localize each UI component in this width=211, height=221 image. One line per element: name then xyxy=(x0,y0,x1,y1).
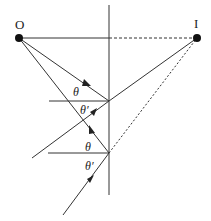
reflected-ray-1 xyxy=(32,101,109,158)
diagram-canvas xyxy=(0,0,211,221)
virtual-ray-1 xyxy=(109,38,197,101)
image-point xyxy=(193,34,201,42)
angle-reflection-1: θ′ xyxy=(80,104,89,116)
object-point xyxy=(15,34,23,42)
arrow-icon xyxy=(89,125,95,134)
incident-ray-1 xyxy=(19,38,109,101)
angle-reflection-2: θ′ xyxy=(85,160,94,172)
angle-incidence-2: θ xyxy=(85,141,91,153)
object-label: O xyxy=(15,18,24,31)
incident-ray-2 xyxy=(19,38,109,153)
reflection-diagram: O I θ θ′ θ θ′ xyxy=(0,0,211,221)
angle-incidence-1: θ xyxy=(73,86,79,98)
virtual-ray-2 xyxy=(109,38,197,153)
arrow-icon xyxy=(82,79,91,86)
image-label: I xyxy=(194,17,198,30)
